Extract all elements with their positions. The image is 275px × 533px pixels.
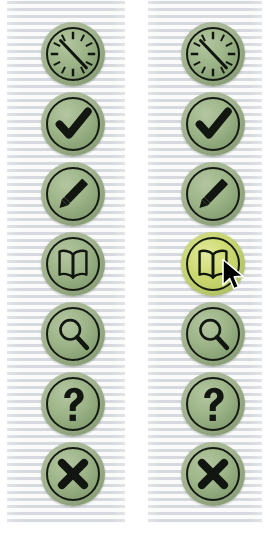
toolbar-button-compass[interactable] <box>41 22 105 86</box>
question-mark-icon <box>188 379 238 429</box>
button-disc <box>186 237 240 291</box>
button-disc <box>46 97 100 151</box>
toolbar-button-search-hl[interactable] <box>181 302 245 366</box>
toolbar-button-check[interactable] <box>41 92 105 156</box>
magnifier-icon <box>48 309 98 359</box>
toolbar-button-close[interactable] <box>41 442 105 506</box>
toolbar-button-close-hl[interactable] <box>181 442 245 506</box>
toolbar-button-compass-hl[interactable] <box>181 22 245 86</box>
button-disc <box>46 447 100 501</box>
button-disc <box>46 237 100 291</box>
open-book-icon <box>188 239 238 289</box>
toolbar-button-help-hl[interactable] <box>181 372 245 436</box>
button-disc <box>186 167 240 221</box>
pencil-icon <box>188 169 238 219</box>
button-disc <box>186 377 240 431</box>
compass-clock-icon <box>188 29 238 79</box>
toolbar-button-pencil-hl[interactable] <box>181 162 245 226</box>
button-disc <box>46 27 100 81</box>
toolbar-button-search[interactable] <box>41 302 105 366</box>
question-mark-icon <box>48 379 98 429</box>
checkmark-icon <box>48 99 98 149</box>
cross-icon <box>188 449 238 499</box>
button-disc <box>46 377 100 431</box>
open-book-icon <box>48 239 98 289</box>
toolbar-button-help[interactable] <box>41 372 105 436</box>
toolbar-normal <box>32 0 112 533</box>
button-disc <box>46 167 100 221</box>
checkmark-icon <box>188 99 238 149</box>
toolbar-button-pencil[interactable] <box>41 162 105 226</box>
magnifier-icon <box>188 309 238 359</box>
button-disc <box>186 447 240 501</box>
button-disc <box>186 27 240 81</box>
toolbar-button-book-hl[interactable] <box>181 232 245 296</box>
cross-icon <box>48 449 98 499</box>
button-disc <box>186 97 240 151</box>
toolbar-button-book[interactable] <box>41 232 105 296</box>
button-disc <box>186 307 240 361</box>
screenshot-root <box>0 0 275 533</box>
toolbar-button-check-hl[interactable] <box>181 92 245 156</box>
button-disc <box>46 307 100 361</box>
compass-clock-icon <box>48 29 98 79</box>
toolbar-highlighted <box>172 0 252 533</box>
pencil-icon <box>48 169 98 219</box>
